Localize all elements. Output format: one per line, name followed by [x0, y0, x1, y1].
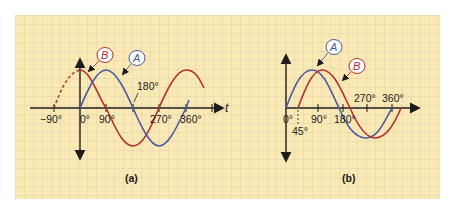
- phase-diagram-figure: −90° 0° 90° 180° 270° 360° t B A (a): [0, 0, 451, 215]
- panel-b-label-180: 180°: [334, 113, 356, 125]
- panel-b-label-90: 90°: [311, 113, 327, 125]
- panel-b-caption: (b): [342, 172, 355, 184]
- panel-b-label-0: 0°: [283, 113, 293, 125]
- panel-a-wave-b-label: B: [101, 49, 108, 61]
- panel-a-caption: (a): [125, 172, 138, 184]
- panel-a-label-270: 270°: [150, 113, 172, 125]
- panel-b-wave-b-label: B: [353, 60, 360, 72]
- panel-a-label-360: 360°: [180, 113, 202, 125]
- panel-b-label-45: 45°: [292, 125, 308, 137]
- panel-a-label-neg90: −90°: [40, 113, 62, 125]
- panel-b-label-270: 270°: [354, 92, 376, 104]
- panel-a-label-0: 0°: [80, 113, 90, 125]
- panel-b-label-360: 360°: [382, 92, 404, 104]
- panel-a-wave-a-label: A: [132, 52, 140, 64]
- panel-b-wave-a-label: A: [329, 41, 337, 53]
- panel-a-label-90: 90°: [99, 113, 115, 125]
- panel-a-label-180: 180°: [137, 80, 159, 92]
